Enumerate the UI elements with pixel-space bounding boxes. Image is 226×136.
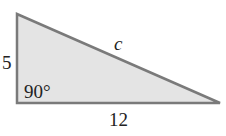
horizontal-side-label: 12 <box>109 109 128 130</box>
right-angle-label: 90° <box>24 81 51 102</box>
triangle-diagram: 5 90° c 12 <box>0 0 226 136</box>
vertical-side-label: 5 <box>2 52 12 73</box>
hypotenuse-label: c <box>114 33 123 54</box>
